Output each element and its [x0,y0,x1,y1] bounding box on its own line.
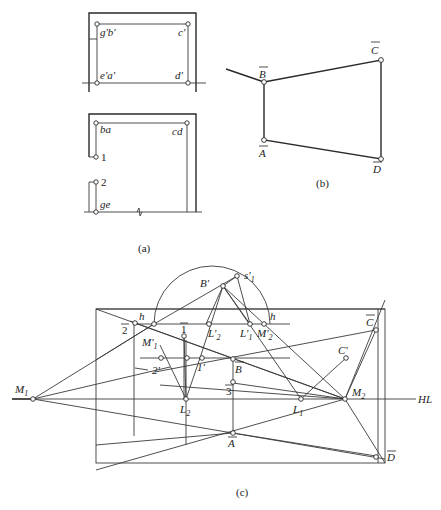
label-Bp: B' [200,277,210,289]
label-M1p: M'1 [141,336,158,351]
label-Cp: C' [338,344,348,356]
label-bar2: 2 [122,324,128,336]
point-s1 [235,274,240,279]
label-2p: 2' [152,364,161,376]
caption-a: (a) [138,242,151,255]
point-L2 [184,397,189,402]
point-A [231,431,236,436]
point-ea [95,81,99,85]
point-bar3 [231,380,236,385]
label-ea: e'a' [100,69,116,81]
label-2: 2 [101,176,107,188]
panel-a: g'b' c' e'a' d' ba cd 1 2 ge (a) [82,13,206,255]
point-d [186,81,190,85]
label-1: 1 [101,151,107,163]
point-L2p [207,322,212,327]
label-C: C [371,44,379,56]
label-HL: HL [417,393,432,405]
point-L1p [248,322,253,327]
label-s1: s'1 [244,269,255,284]
point-gb [95,22,99,26]
panel-c: B' s'1 h h L'2 L'1 M'2 M'1 1 2 3 1' 2' B… [12,266,432,499]
caption-b: (b) [316,177,329,190]
point-M2 [343,397,348,402]
label-gb: g'b' [100,26,116,38]
label-ge: ge [100,198,111,210]
point-Bp [221,284,226,289]
point-c [186,22,190,26]
label-D: D [386,451,395,463]
label-L2: L2 [179,403,190,418]
label-B: B [259,68,266,80]
point-h-left [133,321,138,326]
point-M1 [31,397,36,402]
point-1p [200,356,205,361]
label-h-right: h [270,310,276,322]
label-1p: 1' [197,361,206,373]
label-bar3: 3 [226,385,232,397]
label-B: B [235,363,242,375]
label-cd: cd [172,125,183,137]
point-D [374,455,379,460]
label-L1p: L'1 [239,327,252,342]
label-M1: M1 [14,383,28,398]
label-D: D [372,163,381,175]
point-C [374,328,379,333]
label-d: d' [175,69,184,81]
point-M2p [262,322,267,327]
point-L1 [299,397,304,402]
label-c: c' [178,26,186,38]
perspective-construction-figure: g'b' c' e'a' d' ba cd 1 2 ge (a) B C [0,0,441,510]
label-ba: ba [100,123,112,135]
quadrilateral-ABCD [264,60,381,159]
point-B [231,357,236,362]
label-C: C [366,316,374,328]
panel-b: B C A D (b) [226,42,383,190]
label-bar1: 1 [181,323,187,335]
point-M1p [159,356,164,361]
point-Cp [344,356,349,361]
label-L2p: L'2 [207,327,220,342]
label-A: A [227,437,235,449]
label-L1: L1 [292,403,303,418]
label-h-left: h [139,310,145,322]
caption-c: (c) [236,486,249,499]
label-A: A [258,147,266,159]
